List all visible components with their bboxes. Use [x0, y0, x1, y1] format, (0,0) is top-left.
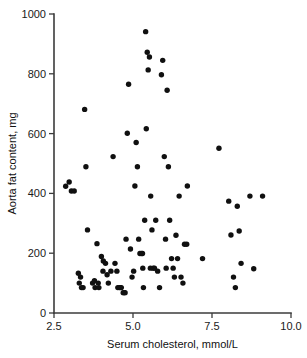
data-point [170, 265, 175, 270]
data-point [131, 268, 136, 273]
data-point [63, 184, 68, 189]
data-point [144, 126, 149, 131]
y-tick-label: 600 [28, 128, 46, 140]
data-point [133, 140, 138, 145]
data-point [155, 268, 160, 273]
x-tick-label: 7.5 [204, 320, 219, 332]
data-point [178, 274, 183, 279]
y-tick-label: 800 [28, 68, 46, 80]
data-point [247, 193, 252, 198]
scatter-plot-figure: 020040060080010002.55.07.510.0 Serum cho… [0, 0, 307, 358]
data-point [163, 236, 168, 241]
data-points-group [63, 29, 265, 295]
data-point [123, 236, 128, 241]
data-point [226, 198, 231, 203]
data-point [112, 261, 117, 266]
data-point [148, 265, 153, 270]
data-point [185, 183, 190, 188]
data-point [80, 285, 85, 290]
data-point [128, 246, 133, 251]
data-point [132, 183, 137, 188]
data-point [114, 268, 119, 273]
data-point [126, 82, 131, 87]
data-point [260, 193, 265, 198]
data-point [233, 285, 238, 290]
data-point [148, 193, 153, 198]
data-point [162, 154, 167, 159]
data-point [200, 256, 205, 261]
data-point [228, 232, 233, 237]
data-point [216, 146, 221, 151]
data-point [172, 274, 177, 279]
data-point [166, 164, 171, 169]
data-point [122, 290, 127, 295]
data-point [159, 72, 164, 77]
data-point [251, 266, 256, 271]
y-axis-title: Aorta fat content, mg [6, 112, 18, 214]
data-point [140, 251, 145, 256]
y-tick-label: 400 [28, 187, 46, 199]
data-point [96, 280, 101, 285]
data-point [136, 236, 141, 241]
data-point [175, 256, 180, 261]
data-point [82, 107, 87, 112]
data-point [94, 241, 99, 246]
data-point [164, 88, 169, 93]
y-tick-label: 0 [40, 307, 46, 319]
data-point [135, 164, 140, 169]
x-axis-title: Serum cholesterol, mmol/L [107, 338, 238, 350]
data-point [110, 154, 115, 159]
plot-canvas: 020040060080010002.55.07.510.0 Serum cho… [0, 0, 307, 358]
data-point [149, 227, 154, 232]
data-point [140, 265, 145, 270]
data-point [160, 58, 165, 63]
data-point [238, 261, 243, 266]
data-point [118, 285, 123, 290]
y-tick-label: 200 [28, 247, 46, 259]
data-point [231, 274, 236, 279]
data-point [153, 218, 158, 223]
data-point [108, 268, 113, 273]
data-point [235, 204, 240, 209]
data-point [66, 179, 71, 184]
data-point [236, 228, 241, 233]
x-tick-label: 10.0 [280, 320, 301, 332]
data-point [184, 242, 189, 247]
data-point [157, 285, 162, 290]
data-point [141, 285, 146, 290]
x-tick-label: 5.0 [125, 320, 140, 332]
data-point [145, 67, 150, 72]
data-point [142, 218, 147, 223]
data-point [167, 218, 172, 223]
x-tick-label: 2.5 [46, 320, 61, 332]
data-point [145, 50, 150, 55]
data-point [106, 280, 111, 285]
data-point [85, 227, 90, 232]
data-point [78, 274, 83, 279]
data-point [180, 280, 185, 285]
y-tick-label: 1000 [22, 8, 46, 20]
data-point [103, 261, 108, 266]
data-point [147, 54, 152, 59]
data-point [173, 233, 178, 238]
data-point [143, 29, 148, 34]
data-point [125, 131, 130, 136]
data-point [83, 164, 88, 169]
data-point [176, 193, 181, 198]
ticks-group: 020040060080010002.55.07.510.0 [22, 8, 302, 332]
data-point [163, 265, 168, 270]
data-point [100, 268, 105, 273]
data-point [169, 256, 174, 261]
data-point [72, 188, 77, 193]
data-point [129, 274, 134, 279]
